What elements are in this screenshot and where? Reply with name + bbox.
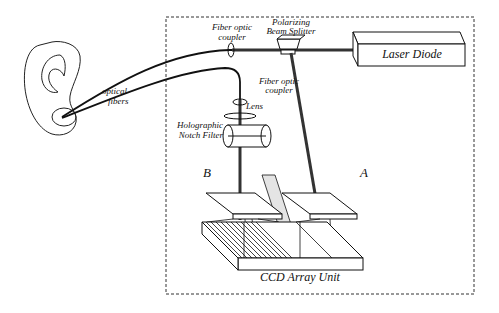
label-optical: optical (102, 86, 127, 96)
label-grating-b: B (203, 165, 211, 180)
label-beam-splitter-2: Beam Splitter (266, 26, 316, 36)
ear-icon (24, 42, 80, 135)
optical-setup-diagram: optical fibers Fiber optic coupler Polar… (0, 0, 499, 313)
fiber-collection (62, 68, 240, 118)
label-fiber-coupler-top-1: Fiber optic (211, 22, 252, 32)
label-fiber-coupler-top-2: coupler (218, 32, 246, 42)
label-ccd-array-unit: CCD Array Unit (260, 270, 340, 284)
label-grating-a: A (359, 165, 368, 180)
label-notch-filter-1: Holographic (176, 120, 223, 130)
label-laser-diode: Laser Diode (381, 47, 442, 61)
label-fibers: fibers (108, 96, 129, 106)
label-notch-filter-2: Notch Filter (178, 130, 224, 140)
grating-a (282, 193, 357, 219)
ccd-array-unit (202, 222, 363, 270)
notch-filter-icon (223, 125, 271, 147)
label-lens: Lens (245, 101, 264, 111)
label-fiber-coupler-mid-2: coupler (265, 85, 293, 95)
